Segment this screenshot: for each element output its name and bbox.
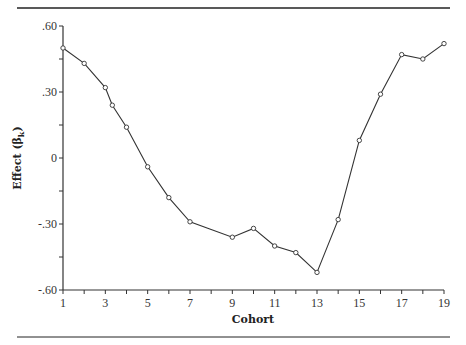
data-point-marker xyxy=(230,235,234,239)
data-point-marker xyxy=(294,250,298,254)
y-tick-label: .60 xyxy=(42,19,57,33)
data-point-marker xyxy=(110,103,114,107)
x-tick-label: 7 xyxy=(187,296,193,310)
line-chart: .60.300-.30-.60135791113151719 Cohort Ef… xyxy=(0,0,466,345)
y-tick-label: 0 xyxy=(51,151,57,165)
axes: .60.300-.30-.60135791113151719 xyxy=(38,19,450,310)
data-point-marker xyxy=(167,195,171,199)
data-point-marker xyxy=(378,92,382,96)
y-tick-label: -.60 xyxy=(38,283,57,297)
x-axis-title: Cohort xyxy=(232,313,275,326)
data-point-marker xyxy=(442,41,446,45)
data-point-marker xyxy=(399,52,403,56)
data-point-marker xyxy=(315,270,319,274)
y-tick-label: .30 xyxy=(42,85,57,99)
data-point-marker xyxy=(82,61,86,65)
data-point-marker xyxy=(272,244,276,248)
data-point-marker xyxy=(103,85,107,89)
data-point-marker xyxy=(357,138,361,142)
data-point-marker xyxy=(188,220,192,224)
x-tick-label: 3 xyxy=(102,296,108,310)
x-tick-label: 9 xyxy=(229,296,235,310)
data-point-marker xyxy=(145,165,149,169)
x-tick-label: 15 xyxy=(353,296,365,310)
data-point-marker xyxy=(336,217,340,221)
data-point-marker xyxy=(251,226,255,230)
x-tick-label: 13 xyxy=(311,296,323,310)
x-tick-label: 11 xyxy=(269,296,281,310)
x-tick-label: 19 xyxy=(438,296,450,310)
x-tick-label: 1 xyxy=(60,296,66,310)
series-line xyxy=(63,44,444,273)
x-tick-label: 17 xyxy=(396,296,408,310)
data-point-marker xyxy=(61,46,65,50)
data-series xyxy=(61,41,446,274)
y-axis-title: Effect (βk) xyxy=(11,126,26,189)
x-tick-label: 5 xyxy=(145,296,151,310)
data-point-marker xyxy=(124,125,128,129)
data-point-marker xyxy=(421,57,425,61)
y-tick-label: -.30 xyxy=(38,217,57,231)
